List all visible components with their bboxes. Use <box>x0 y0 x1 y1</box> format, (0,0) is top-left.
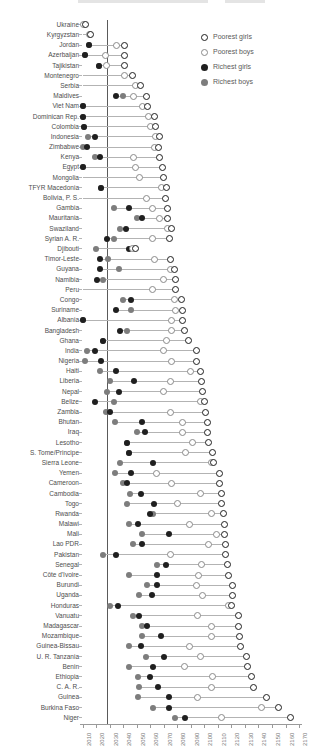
poorest-boys-dot <box>194 694 201 701</box>
poorest-girls-dot <box>221 521 228 528</box>
poorest-boys-dot <box>179 429 186 436</box>
richest-boys-dot <box>85 134 91 140</box>
richest-girls-dot <box>100 338 106 344</box>
country-label: Côte d'Ivoire <box>4 571 79 578</box>
richest-boys-dot <box>84 348 90 354</box>
richest-girls-dot <box>150 460 156 466</box>
poorest-girls-dot <box>244 663 251 670</box>
richest-boys-dot <box>134 429 140 435</box>
connector-line <box>95 157 160 158</box>
poorest-boys-dot <box>130 93 137 100</box>
richest-girls-dot <box>128 297 134 303</box>
poorest-girls-dot <box>121 52 128 59</box>
country-label: Montenegro <box>4 72 79 79</box>
x-axis-tick <box>231 725 232 728</box>
poorest-boys-dot <box>168 358 175 365</box>
country-label: Ghana <box>4 337 79 344</box>
country-label: Ukraine <box>4 21 79 28</box>
row-tick <box>79 259 82 260</box>
row-tick <box>79 269 82 270</box>
row-tick <box>79 136 82 137</box>
country-label: Peru <box>4 286 79 293</box>
country-label: Guyana <box>4 265 79 272</box>
x-axis-tick <box>110 725 111 728</box>
poorest-boys-dot <box>208 623 215 630</box>
poorest-girls-dot <box>225 572 232 579</box>
country-label: Albania <box>4 316 79 323</box>
legend-label: Richest boys <box>213 78 253 85</box>
country-label: Vanuatu <box>4 612 79 619</box>
x-axis-tick-label: 2060 <box>153 733 159 746</box>
richest-boys-dot <box>120 297 126 303</box>
country-label: Iraq <box>4 428 79 435</box>
richest-boys-dot <box>139 633 145 639</box>
row-tick <box>79 483 82 484</box>
connector-line <box>129 524 225 525</box>
richest-girls-dot <box>116 389 122 395</box>
country-label: Cameroon <box>4 479 79 486</box>
connector-line <box>115 422 207 423</box>
connector-line <box>129 452 213 453</box>
country-label: Haiti <box>4 367 79 374</box>
poorest-girls-dot <box>168 225 175 232</box>
row-tick <box>79 187 82 188</box>
country-label: Pakistan <box>4 551 79 558</box>
poorest-boys-dot <box>208 633 215 640</box>
country-label: Benin <box>4 663 79 670</box>
poorest-girls-marker-icon <box>201 34 208 41</box>
poorest-girls-dot <box>159 164 166 171</box>
poorest-boys-dot <box>197 490 204 497</box>
connector-line <box>129 666 248 667</box>
richest-girls-dot <box>144 623 150 629</box>
poorest-boys-dot <box>213 531 220 538</box>
country-label: Madagascar <box>4 622 79 629</box>
x-axis-tick-label: 2020 <box>99 733 105 746</box>
richest-girls-dot <box>124 480 130 486</box>
richest-boys-dot <box>111 399 117 405</box>
country-label: Rwanda <box>4 510 79 517</box>
row-tick <box>79 401 82 402</box>
poorest-girls-dot <box>275 704 282 711</box>
poorest-girls-dot <box>216 480 223 487</box>
poorest-girls-dot <box>163 184 170 191</box>
richest-girls-dot <box>81 124 87 130</box>
poorest-girls-dot <box>171 266 178 273</box>
poorest-girls-dot <box>155 144 162 151</box>
poorest-girls-dot <box>202 409 209 416</box>
poorest-boys-dot <box>182 449 189 456</box>
poorest-girls-dot <box>229 592 236 599</box>
richest-boys-dot <box>107 378 113 384</box>
richest-boys-dot <box>127 491 133 497</box>
poorest-boys-dot <box>168 317 175 324</box>
richest-girls-dot <box>151 501 157 507</box>
country-label: Guinea <box>4 693 79 700</box>
row-tick <box>79 595 82 596</box>
richest-boys-dot <box>139 531 145 537</box>
poorest-boys-dot <box>149 235 156 242</box>
poorest-boys-dot <box>160 388 167 395</box>
richest-boys-dot <box>93 246 99 252</box>
richest-girls-dot <box>80 317 86 323</box>
richest-girls-dot <box>82 52 88 58</box>
richest-boys-dot <box>104 389 110 395</box>
poorest-boys-dot <box>208 510 215 517</box>
richest-boys-dot <box>135 674 141 680</box>
row-tick <box>79 299 82 300</box>
richest-girls-dot <box>128 470 134 476</box>
poorest-girls-dot <box>156 154 163 161</box>
country-label: Mongolia <box>4 174 79 181</box>
poorest-girls-dot <box>210 459 217 466</box>
connector-line <box>133 615 239 616</box>
row-tick <box>79 228 82 229</box>
richest-girls-dot <box>113 307 119 313</box>
country-label: Colombia <box>4 123 79 130</box>
poorest-girls-dot <box>143 93 150 100</box>
poorest-girls-dot <box>193 358 200 365</box>
richest-boys-dot <box>100 277 106 283</box>
country-label: Uganda <box>4 591 79 598</box>
poorest-girls-dot <box>152 123 159 130</box>
dumbbell-chart: Poorest girls Poorest boys Richest girls… <box>0 0 319 747</box>
row-tick <box>79 676 82 677</box>
richest-girls-dot <box>155 684 161 690</box>
richest-girls-dot <box>94 277 100 283</box>
